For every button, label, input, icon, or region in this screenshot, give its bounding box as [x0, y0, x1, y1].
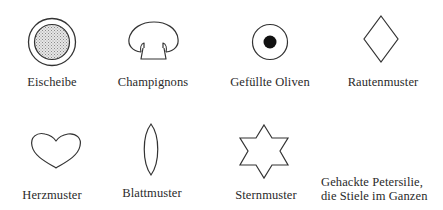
star-icon — [240, 125, 288, 178]
diamond-icon — [364, 16, 398, 62]
label-blattmuster: Blattmuster — [122, 186, 181, 200]
label-champignons: Champignons — [118, 75, 189, 89]
label-sternmuster: Sternmuster — [235, 188, 297, 202]
egg-slice-icon — [29, 19, 76, 66]
label-line-2: die Stiele im Ganzen — [321, 189, 427, 203]
leaf-icon — [144, 124, 158, 175]
label-gehackte-petersilie: Gehackte Petersilie, die Stiele im Ganze… — [321, 175, 427, 203]
mushroom-icon — [129, 22, 178, 59]
stuffed-olive-icon — [253, 25, 288, 60]
label-eischeibe: Eischeibe — [27, 75, 77, 89]
heart-icon — [32, 134, 81, 168]
label-line-1: Gehackte Petersilie, — [321, 175, 427, 189]
label-gefuellte-oliven: Gefüllte Oliven — [230, 75, 310, 89]
label-herzmuster: Herzmuster — [22, 188, 81, 202]
label-rautenmuster: Rautenmuster — [348, 75, 419, 89]
